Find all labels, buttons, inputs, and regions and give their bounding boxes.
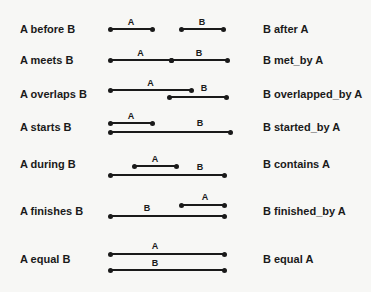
interval-b-line bbox=[110, 269, 224, 271]
interval-a-label: A bbox=[128, 111, 135, 121]
interval-b-line bbox=[169, 96, 226, 98]
interval-endpoint bbox=[169, 58, 174, 63]
relation-label-right: B contains A bbox=[263, 158, 330, 170]
interval-endpoint bbox=[225, 58, 230, 63]
relation-label-right: B finished_by A bbox=[263, 205, 346, 217]
interval-endpoint bbox=[222, 203, 227, 208]
interval-b-line bbox=[181, 28, 223, 30]
relation-label-right: B overlapped_by A bbox=[263, 88, 362, 100]
allen-relations-diagram: A before BB after AABA meets BB met_by A… bbox=[0, 0, 371, 292]
interval-a-line bbox=[110, 28, 152, 30]
interval-endpoint bbox=[222, 252, 227, 257]
relation-label-right: B started_by A bbox=[263, 121, 340, 133]
interval-a-line bbox=[134, 165, 176, 167]
interval-b-label: B bbox=[144, 203, 151, 213]
interval-a-label: A bbox=[137, 48, 144, 58]
interval-endpoint bbox=[108, 121, 113, 126]
interval-b-label: B bbox=[197, 118, 204, 128]
relation-label-left: A overlaps B bbox=[20, 88, 87, 100]
interval-a-label: A bbox=[202, 192, 209, 202]
relation-label-right: B after A bbox=[263, 23, 308, 35]
interval-endpoint bbox=[167, 95, 172, 100]
interval-a-label: A bbox=[152, 154, 159, 164]
interval-endpoint bbox=[108, 58, 113, 63]
interval-endpoint bbox=[224, 95, 229, 100]
relation-label-left: A before B bbox=[20, 23, 75, 35]
interval-endpoint bbox=[108, 268, 113, 273]
interval-b-line bbox=[110, 131, 230, 133]
interval-a-line bbox=[110, 89, 191, 91]
interval-a-label: A bbox=[147, 78, 154, 88]
interval-endpoint bbox=[179, 203, 184, 208]
interval-endpoint bbox=[174, 164, 179, 169]
relation-label-left: A starts B bbox=[20, 121, 72, 133]
interval-endpoint bbox=[222, 268, 227, 273]
relation-label-left: A during B bbox=[20, 158, 76, 170]
interval-a-line bbox=[181, 204, 224, 206]
interval-endpoint bbox=[221, 27, 226, 32]
interval-endpoint bbox=[132, 164, 137, 169]
interval-endpoint bbox=[189, 88, 194, 93]
relation-label-left: A equal B bbox=[20, 253, 70, 265]
interval-endpoint bbox=[108, 88, 113, 93]
interval-endpoint bbox=[108, 173, 113, 178]
interval-endpoint bbox=[108, 27, 113, 32]
interval-a-line bbox=[110, 122, 152, 124]
interval-endpoint bbox=[108, 130, 113, 135]
interval-b-label: B bbox=[199, 17, 206, 27]
interval-endpoint bbox=[222, 173, 227, 178]
interval-b-label: B bbox=[152, 258, 159, 268]
interval-a-line bbox=[110, 253, 224, 255]
interval-b-label: B bbox=[197, 162, 204, 172]
interval-a-label: A bbox=[128, 17, 135, 27]
interval-endpoint bbox=[228, 130, 233, 135]
interval-b-label: B bbox=[201, 83, 208, 93]
interval-endpoint bbox=[222, 214, 227, 219]
relation-label-left: A meets B bbox=[20, 54, 73, 66]
interval-a-line bbox=[110, 59, 171, 61]
interval-b-label: B bbox=[196, 48, 203, 58]
interval-b-line bbox=[110, 215, 224, 217]
interval-b-line bbox=[110, 174, 224, 176]
interval-endpoint bbox=[179, 27, 184, 32]
relation-label-right: B equal A bbox=[263, 253, 313, 265]
interval-endpoint bbox=[150, 27, 155, 32]
relation-label-left: A finishes B bbox=[20, 205, 83, 217]
relation-label-right: B met_by A bbox=[263, 54, 323, 66]
interval-endpoint bbox=[108, 214, 113, 219]
interval-a-label: A bbox=[152, 241, 159, 251]
interval-endpoint bbox=[150, 121, 155, 126]
interval-endpoint bbox=[108, 252, 113, 257]
interval-b-line bbox=[171, 59, 227, 61]
